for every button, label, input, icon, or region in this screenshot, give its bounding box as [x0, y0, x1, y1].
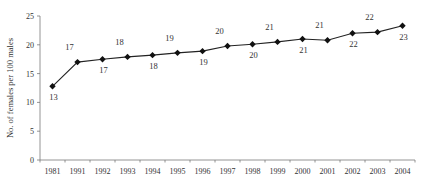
y-axis-title: No. of females per 100 males: [5, 38, 15, 138]
x-tick-label: 1996: [195, 167, 211, 176]
y-tick-label: 10: [26, 98, 34, 107]
diamond-marker: [374, 29, 380, 35]
data-label: 17: [65, 42, 74, 52]
x-tick-label: 1981: [45, 167, 61, 176]
data-label: 18: [149, 61, 158, 71]
diamond-marker: [249, 41, 255, 47]
x-tick-label: 1995: [170, 167, 186, 176]
data-label: 21: [315, 20, 324, 30]
y-tick-label: 25: [26, 12, 34, 21]
diamond-marker: [274, 39, 280, 45]
data-label: 22: [349, 39, 358, 49]
diamond-marker: [174, 50, 180, 56]
x-tick-label: 2002: [345, 167, 361, 176]
x-tick-label: 1992: [95, 167, 111, 176]
diamond-marker: [199, 48, 205, 54]
data-series: [49, 23, 405, 90]
x-tick-label: 1991: [70, 167, 86, 176]
data-label: 20: [249, 50, 258, 60]
diamond-marker: [124, 54, 130, 60]
diamond-marker: [224, 43, 230, 49]
diamond-marker: [349, 30, 355, 36]
y-tick-label: 0: [30, 156, 34, 165]
y-tick-label: 5: [30, 127, 34, 136]
x-tick-label: 1993: [120, 167, 136, 176]
data-label: 18: [115, 37, 124, 47]
diamond-marker: [99, 56, 105, 62]
data-label: 17: [99, 65, 108, 75]
data-label: 13: [49, 92, 58, 102]
x-tick-label: 1994: [145, 167, 161, 176]
y-tick-label: 20: [26, 41, 34, 50]
data-label: 21: [299, 45, 308, 55]
diamond-marker: [299, 36, 305, 42]
line-chart: No. of females per 100 males 0510152025 …: [0, 0, 421, 184]
x-tick-label: 2004: [395, 167, 411, 176]
y-tick-label: 15: [26, 70, 34, 79]
series-line: [53, 26, 403, 86]
data-label: 19: [165, 33, 174, 43]
diamond-marker: [399, 23, 405, 29]
data-label: 21: [265, 22, 274, 32]
x-tick-label: 2001: [320, 167, 336, 176]
x-tick-label: 1997: [220, 167, 236, 176]
diamond-marker: [324, 37, 330, 43]
x-tick-label: 2003: [370, 167, 386, 176]
diamond-marker: [149, 52, 155, 58]
data-label: 22: [365, 12, 374, 22]
y-axis: 0510152025: [26, 12, 40, 165]
x-tick-label: 2000: [295, 167, 311, 176]
x-tick-label: 1999: [270, 167, 286, 176]
x-axis: 1981199119921993199419951996199719981999…: [40, 160, 415, 176]
data-label: 23: [399, 32, 408, 42]
x-tick-label: 1998: [245, 167, 261, 176]
data-label: 19: [199, 57, 208, 67]
data-label: 20: [215, 26, 224, 36]
